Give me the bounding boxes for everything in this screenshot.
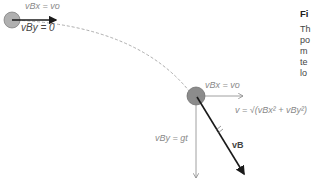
figure-caption-panel: Fi Th po m te lo bbox=[300, 0, 312, 79]
caption-line: m bbox=[300, 46, 312, 57]
figure-title: Fi bbox=[300, 8, 312, 19]
bottom-vx-label: vBx = vo bbox=[205, 80, 240, 90]
speed-magnitude-label: v = √(vBx² + vBy²) bbox=[235, 105, 307, 115]
caption-line: po bbox=[300, 35, 312, 46]
bottom-vy-label: vBy = gt bbox=[155, 133, 188, 143]
caption-line: lo bbox=[300, 68, 312, 79]
top-vy-label: vBy = 0 bbox=[21, 22, 55, 33]
caption-line: Th bbox=[300, 24, 312, 35]
vb-label: vB bbox=[232, 140, 244, 150]
top-vx-label: vBx = vo bbox=[25, 1, 60, 11]
caption-line: te bbox=[300, 57, 312, 68]
